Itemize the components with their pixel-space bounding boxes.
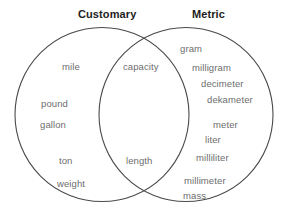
customary-set-title: Customary bbox=[78, 8, 136, 20]
term-customary-weight: weight bbox=[57, 178, 85, 189]
venn-diagram: Customary Metric milepoundgallontonweigh… bbox=[0, 0, 283, 224]
term-metric-liter: liter bbox=[205, 134, 221, 145]
venn-circles-canvas bbox=[0, 0, 283, 224]
term-customary-pound: pound bbox=[41, 98, 68, 109]
term-customary-mile: mile bbox=[62, 61, 80, 72]
term-metric-milligram: milligram bbox=[192, 62, 231, 73]
metric-set-title: Metric bbox=[192, 8, 225, 20]
term-metric-mass: mass bbox=[183, 190, 206, 201]
term-metric-milliliter: milliliter bbox=[196, 152, 229, 163]
term-metric-dekameter: dekameter bbox=[207, 94, 253, 105]
term-metric-meter: meter bbox=[213, 119, 238, 130]
term-shared-length: length bbox=[126, 155, 152, 166]
term-metric-decimeter: decimeter bbox=[201, 78, 244, 89]
term-metric-millimeter: millimeter bbox=[184, 175, 226, 186]
term-customary-ton: ton bbox=[59, 155, 73, 166]
term-customary-gallon: gallon bbox=[40, 119, 66, 130]
term-metric-gram: gram bbox=[180, 43, 202, 54]
term-shared-capacity: capacity bbox=[123, 61, 159, 72]
